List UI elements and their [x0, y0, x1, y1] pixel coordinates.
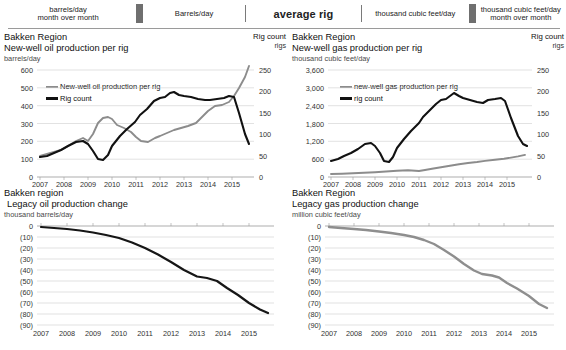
svg-text:100: 100	[537, 130, 549, 139]
svg-text:(20): (20)	[20, 244, 33, 253]
svg-text:2010: 2010	[111, 329, 127, 338]
svg-text:0: 0	[537, 173, 541, 182]
ribbon-cell-barrels-per-day-label: Barrels/day	[175, 10, 213, 19]
svg-text:250: 250	[537, 66, 549, 75]
svg-text:2012: 2012	[163, 329, 179, 338]
ribbon-cell-average-rig[interactable]: average rig	[246, 0, 361, 28]
svg-text:100: 100	[21, 155, 33, 164]
chart-br-gridlines	[325, 237, 554, 325]
svg-text:200: 200	[537, 87, 549, 96]
svg-text:2008: 2008	[345, 180, 361, 188]
chart-tl-x-axis-labels: 2007 2008 2009 2010 2011 2012 2013 2014 …	[32, 180, 240, 188]
chart-panel-legacy-gas-change: Bakken Region Legacy gas production chan…	[292, 188, 564, 348]
svg-text:2,400: 2,400	[306, 102, 324, 111]
svg-text:2015: 2015	[499, 180, 515, 188]
svg-text:2007: 2007	[32, 180, 48, 188]
header-divider	[8, 28, 560, 29]
svg-text:(40): (40)	[20, 266, 33, 275]
chart-panel-new-well-oil-per-rig: Bakken Region New-well oil production pe…	[4, 32, 286, 188]
svg-text:400: 400	[21, 102, 33, 111]
svg-text:(10): (10)	[308, 233, 321, 242]
svg-text:250: 250	[259, 66, 271, 75]
svg-text:2014: 2014	[200, 180, 216, 188]
ribbon-cell-gas-month-over-month-label: thousand cubic feet/daymonth over month	[481, 6, 561, 23]
chart-tl-y2-axis-labels: 250 200 150 100 50 0	[259, 66, 271, 182]
svg-text:2009: 2009	[80, 180, 96, 188]
svg-text:2014: 2014	[477, 180, 493, 188]
svg-text:2013: 2013	[176, 180, 192, 188]
chart-tr-y2-axis-labels: 250 200 150 100 50 0	[537, 66, 549, 182]
ribbon-cell-gas-month-over-month[interactable]: thousand cubic feet/daymonth over month	[476, 0, 566, 28]
ribbon-cell-average-rig-label: average rig	[274, 8, 334, 20]
chart-tr-series-production-line	[331, 155, 525, 174]
svg-text:(70): (70)	[308, 299, 321, 308]
svg-text:0: 0	[317, 222, 321, 231]
ribbon-cell-thousand-cubic-feet[interactable]: thousand cubic feet/day	[362, 0, 469, 28]
chart-tl-y-axis-labels: 600 500 400 300 200 100 0	[21, 66, 33, 182]
ribbon-separator-thick-2	[469, 4, 476, 23]
svg-text:2015: 2015	[241, 329, 257, 338]
eia-drilling-productivity-bakken-page: barrels/daymonth over month Barrels/day …	[0, 0, 566, 350]
svg-text:0: 0	[29, 222, 33, 231]
chart-tr-x-axis-labels: 2007 2008 2009 2010 2011 2012 2013 2014 …	[323, 180, 515, 188]
svg-text:(30): (30)	[308, 255, 321, 264]
svg-text:150: 150	[259, 109, 271, 118]
svg-text:2015: 2015	[224, 180, 240, 188]
ribbon-cell-oil-month-over-month-label: barrels/daymonth over month	[37, 6, 98, 23]
chart-tr-series-rigcount-line	[331, 93, 527, 162]
svg-text:(10): (10)	[20, 233, 33, 242]
svg-text:0: 0	[259, 173, 263, 182]
svg-text:2011: 2011	[137, 329, 153, 338]
svg-text:2013: 2013	[189, 329, 205, 338]
svg-text:2013: 2013	[455, 180, 471, 188]
chart-bl-y-axis-labels: 0 (10) (20) (30) (40) (50) (60) (70) (80…	[20, 222, 33, 330]
chart-bl-plot: 0 (10) (20) (30) (40) (50) (60) (70) (80…	[4, 188, 286, 348]
svg-text:2007: 2007	[33, 329, 49, 338]
svg-text:2011: 2011	[421, 329, 437, 338]
ribbon-cell-oil-month-over-month[interactable]: barrels/daymonth over month	[0, 0, 136, 28]
svg-text:2012: 2012	[446, 329, 462, 338]
svg-text:2009: 2009	[85, 329, 101, 338]
svg-text:(80): (80)	[20, 310, 33, 319]
ribbon-cell-barrels-per-day[interactable]: Barrels/day	[143, 0, 245, 28]
svg-text:300: 300	[21, 120, 33, 129]
svg-text:1,800: 1,800	[306, 120, 324, 129]
svg-text:2008: 2008	[346, 329, 362, 338]
svg-text:2014: 2014	[215, 329, 231, 338]
svg-text:(50): (50)	[20, 277, 33, 286]
svg-text:(90): (90)	[308, 321, 321, 330]
chart-tl-plot: 600 500 400 300 200 100 0 250 200 150 10…	[4, 32, 286, 188]
svg-text:2007: 2007	[321, 329, 337, 338]
header-ribbon: barrels/daymonth over month Barrels/day …	[0, 0, 566, 28]
svg-text:2010: 2010	[104, 180, 120, 188]
svg-text:(40): (40)	[308, 266, 321, 275]
chart-br-series-line	[329, 227, 547, 308]
svg-text:2011: 2011	[411, 180, 427, 188]
chart-tr-y-axis-labels: 3,600 3,000 2,400 1,800 1,200 600 0	[306, 66, 324, 182]
svg-text:50: 50	[259, 152, 267, 161]
chart-panel-new-well-gas-per-rig: Bakken Region New-well gas production pe…	[292, 32, 564, 188]
svg-text:600: 600	[312, 155, 324, 164]
svg-text:2008: 2008	[59, 329, 75, 338]
svg-text:2011: 2011	[128, 180, 144, 188]
svg-text:2012: 2012	[433, 180, 449, 188]
chart-br-y-axis-labels: 0 (10) (20) (30) (40) (50) (60) (70) (80…	[308, 222, 321, 330]
chart-br-x-axis-labels: 2007 2008 2009 2010 2011 2012 2013 2014 …	[321, 329, 537, 338]
svg-text:2012: 2012	[152, 180, 168, 188]
svg-text:(80): (80)	[308, 310, 321, 319]
svg-text:200: 200	[21, 137, 33, 146]
chart-bl-gridlines	[37, 237, 274, 325]
svg-text:100: 100	[259, 130, 271, 139]
chart-br-plot: 0 (10) (20) (30) (40) (50) (60) (70) (80…	[292, 188, 564, 348]
svg-text:200: 200	[259, 87, 271, 96]
svg-text:2007: 2007	[323, 180, 339, 188]
svg-text:(70): (70)	[20, 299, 33, 308]
ribbon-cell-thousand-cubic-feet-label: thousand cubic feet/day	[375, 10, 455, 19]
chart-bl-svg: 0 (10) (20) (30) (40) (50) (60) (70) (80…	[4, 188, 286, 348]
chart-bl-x-axis-labels: 2007 2008 2009 2010 2011 2012 2013 2014 …	[33, 329, 257, 338]
svg-text:2009: 2009	[371, 329, 387, 338]
svg-text:600: 600	[21, 66, 33, 75]
svg-text:2009: 2009	[367, 180, 383, 188]
svg-text:50: 50	[537, 152, 545, 161]
ribbon-separator-thick-1	[136, 4, 143, 23]
